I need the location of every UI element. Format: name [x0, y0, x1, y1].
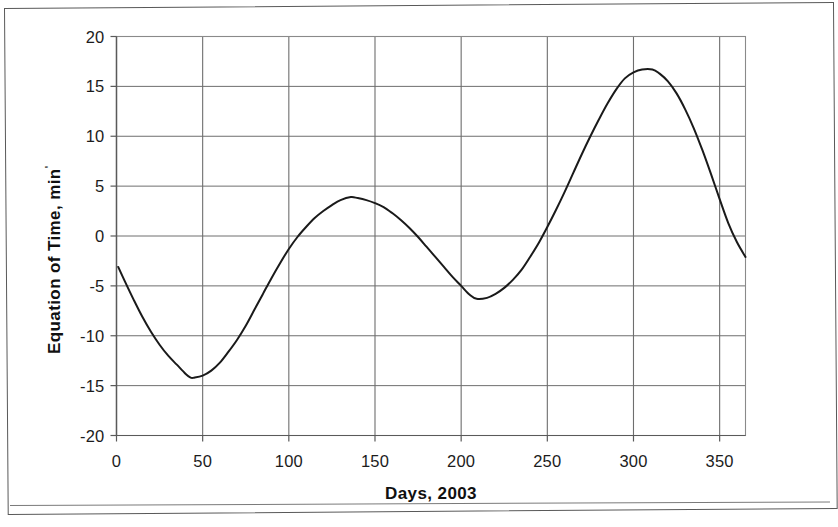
- y-tick-label: -5: [89, 276, 104, 295]
- y-tick-label: -10: [80, 326, 104, 345]
- x-tick-label: 100: [275, 452, 303, 471]
- y-axis-title-suffix: ': [44, 166, 55, 168]
- x-tick-label: 150: [361, 452, 389, 471]
- x-tick-label: 0: [112, 452, 121, 471]
- x-tick-label: 50: [193, 452, 212, 471]
- x-tick-label: 350: [706, 452, 734, 471]
- x-tick-label: 200: [447, 452, 475, 471]
- y-tick-label: 15: [86, 77, 105, 96]
- x-axis-title: Days, 2003: [385, 484, 477, 504]
- data-series-line: [118, 69, 745, 378]
- y-tick-label: -20: [80, 426, 104, 445]
- y-tick-label: 20: [86, 27, 105, 46]
- gridlines: [117, 37, 746, 436]
- y-axis-title: Equation of Time, min': [44, 166, 65, 354]
- x-tick-label: 250: [533, 452, 561, 471]
- y-tick-label: 10: [86, 127, 105, 146]
- y-tick-label: 5: [95, 177, 104, 196]
- y-tick-label: -15: [80, 376, 104, 395]
- x-tick-label: 300: [619, 452, 647, 471]
- y-tick-label: 0: [95, 227, 104, 246]
